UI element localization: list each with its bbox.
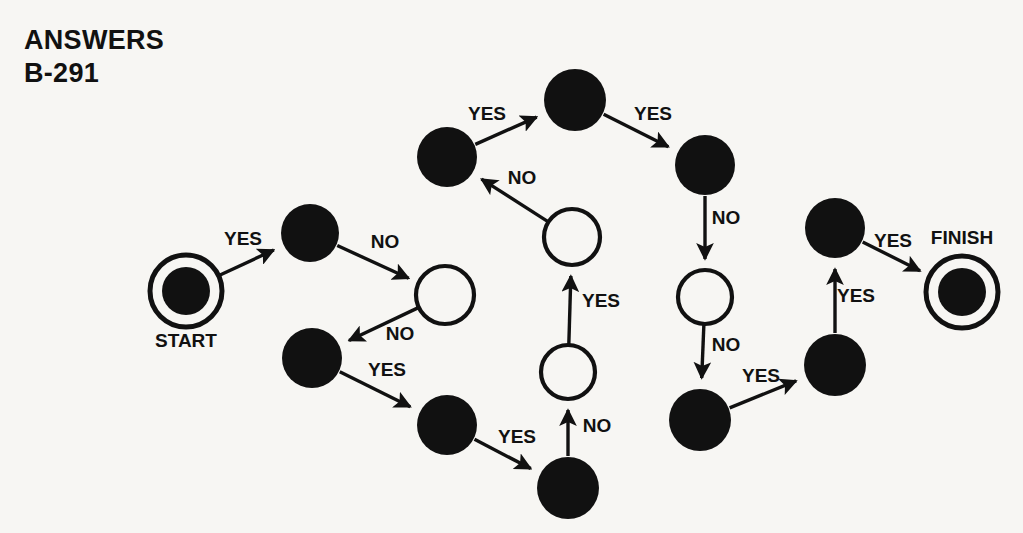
node-start[interactable] xyxy=(150,255,222,327)
node-n10[interactable] xyxy=(675,135,735,195)
edge-label-n4-to-n5: YES xyxy=(498,426,536,447)
node-n1[interactable] xyxy=(281,204,339,262)
edge-label-n2-to-n3: NO xyxy=(386,323,415,344)
node-n13[interactable] xyxy=(804,334,866,396)
node-n12[interactable] xyxy=(669,389,731,451)
edge-label-n9-to-n10: YES xyxy=(634,103,672,124)
edge-label-n1-to-n2: NO xyxy=(371,231,400,252)
edge-n11-to-n12 xyxy=(702,325,704,378)
node-n11[interactable] xyxy=(678,270,732,324)
edge-label-n6-to-n7: YES xyxy=(582,290,620,311)
page-root: ANSWERS B-291 STARTFINISHYESNONOYESYESNO… xyxy=(0,0,1023,533)
edge-n6-to-n7 xyxy=(569,276,571,344)
node-finish[interactable] xyxy=(926,256,998,328)
edge-label-n8-to-n9: YES xyxy=(468,103,506,124)
edge-label-n3-to-n4: YES xyxy=(368,359,406,380)
edges-layer xyxy=(220,114,921,468)
edge-label-n14-to-finish: YES xyxy=(874,230,912,251)
node-n6[interactable] xyxy=(541,345,595,399)
edge-label-n11-to-n12: NO xyxy=(712,334,741,355)
node-n8[interactable] xyxy=(417,127,477,187)
edge-label-n5-to-n6: NO xyxy=(583,415,612,436)
flowchart-diagram: STARTFINISHYESNONOYESYESNOYESNOYESYESNON… xyxy=(0,0,1023,533)
node-n3[interactable] xyxy=(282,328,342,388)
node-n2[interactable] xyxy=(416,266,474,324)
edge-label-n10-to-n11: NO xyxy=(712,207,741,228)
node-n9[interactable] xyxy=(544,69,606,131)
node-n4[interactable] xyxy=(417,395,477,455)
edge-label-n13-to-n14: YES xyxy=(837,285,875,306)
edge-label-start-to-n1: YES xyxy=(224,228,262,249)
node-n5[interactable] xyxy=(537,457,599,519)
edge-label-n12-to-n13: YES xyxy=(742,365,780,386)
node-n7[interactable] xyxy=(544,209,600,265)
terminal-label-start: START xyxy=(155,330,217,351)
node-n14[interactable] xyxy=(805,198,865,258)
edge-start-to-n1 xyxy=(220,250,274,275)
edge-label-n7-to-n8: NO xyxy=(508,167,537,188)
terminal-label-finish: FINISH xyxy=(931,227,993,248)
